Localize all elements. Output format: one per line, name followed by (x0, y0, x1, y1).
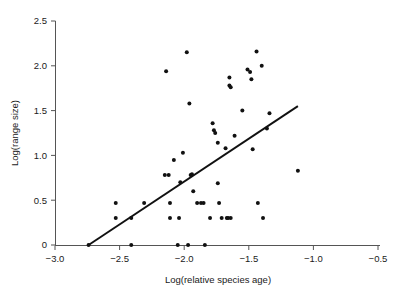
data-point (296, 169, 300, 173)
data-point (168, 216, 172, 220)
data-point (185, 50, 189, 54)
data-point (187, 101, 191, 105)
data-point (129, 243, 133, 247)
data-point (265, 127, 269, 131)
data-point (213, 131, 217, 135)
data-points-group (87, 49, 300, 247)
data-point (163, 173, 167, 177)
data-point (240, 109, 244, 113)
data-point (190, 172, 194, 176)
data-point (203, 243, 207, 247)
data-point (256, 201, 260, 205)
data-point (229, 216, 233, 220)
data-point (164, 69, 168, 73)
data-point (224, 146, 228, 150)
data-point (255, 49, 259, 53)
data-point (129, 216, 133, 220)
data-point (229, 85, 233, 89)
data-point (248, 70, 252, 74)
data-point (217, 201, 221, 205)
data-point (172, 158, 176, 162)
data-point (260, 64, 264, 68)
y-tick-label: 0.5 (34, 195, 47, 206)
data-point (195, 201, 199, 205)
y-axis-title: Log(range size) (9, 100, 20, 166)
data-point (233, 134, 237, 138)
x-axis-ticks: −3.0−2.5−2.0−1.5−1.0−0.5 (46, 246, 388, 265)
data-point (186, 243, 190, 247)
data-point (87, 243, 91, 247)
y-tick-label: 2.0 (34, 60, 47, 71)
data-point (208, 216, 212, 220)
data-point (178, 180, 182, 184)
y-tick-label: 0 (42, 239, 47, 250)
data-point (167, 173, 171, 177)
y-tick-label: 1.0 (34, 150, 47, 161)
data-point (261, 216, 265, 220)
data-point (181, 151, 185, 155)
x-tick-label: −0.5 (369, 253, 388, 264)
data-point (142, 201, 146, 205)
x-axis-title: Log(relative species age) (165, 274, 271, 285)
data-point (177, 216, 181, 220)
plot-canvas: 00.51.01.52.02.5 −3.0−2.5−2.0−1.5−1.0−0.… (0, 0, 397, 294)
y-tick-label: 2.5 (34, 15, 47, 26)
x-tick-label: −1.5 (239, 253, 258, 264)
data-point (216, 141, 220, 145)
data-point (168, 201, 172, 205)
x-tick-label: −3.0 (46, 253, 65, 264)
x-tick-label: −2.0 (175, 253, 194, 264)
y-axis-ticks: 00.51.01.52.02.5 (34, 15, 56, 250)
data-point (267, 111, 271, 115)
y-tick-label: 1.5 (34, 105, 47, 116)
data-point (249, 77, 253, 81)
axes-group (55, 21, 380, 246)
data-point (220, 216, 224, 220)
data-point (114, 201, 118, 205)
data-point (216, 181, 220, 185)
data-point (202, 201, 206, 205)
data-point (227, 75, 231, 79)
data-point (211, 121, 215, 125)
scatter-chart-figure: 00.51.01.52.02.5 −3.0−2.5−2.0−1.5−1.0−0.… (0, 0, 397, 294)
data-point (114, 216, 118, 220)
data-point (191, 189, 195, 193)
x-tick-label: −1.0 (304, 253, 323, 264)
data-point (176, 243, 180, 247)
x-tick-label: −2.5 (110, 253, 129, 264)
data-point (251, 147, 255, 151)
